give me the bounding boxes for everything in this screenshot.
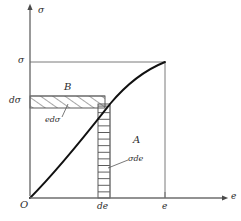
stress-strain-curve	[30, 62, 165, 198]
x-tick-label-de: de	[97, 202, 108, 211]
annotation-leaders	[62, 104, 128, 168]
x-tick-label-e: e	[162, 202, 167, 211]
stress-strain-figure	[0, 0, 241, 221]
annotation-edsigma: edσ	[45, 116, 60, 124]
region-b-hatched-band	[30, 96, 105, 108]
x-axis-label: e	[231, 192, 236, 201]
region-label-a: A	[133, 135, 140, 145]
y-tick-label-sigma: σ	[18, 56, 24, 65]
leader-sigmade	[108, 160, 128, 168]
annotation-sigmade: σde	[128, 155, 143, 163]
origin-label: O	[20, 200, 28, 210]
y-axis-label: σ	[38, 6, 44, 15]
region-label-b: B	[64, 82, 71, 92]
y-tick-label-dsigma: dσ	[9, 96, 21, 105]
